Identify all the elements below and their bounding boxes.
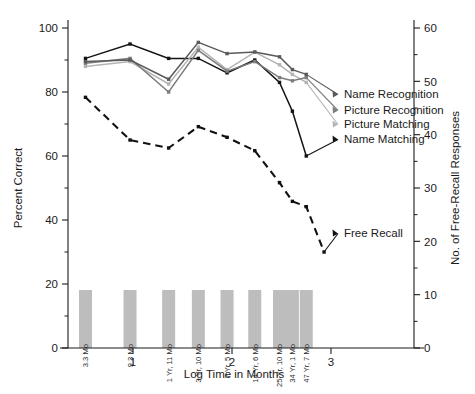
series-marker [291,68,294,71]
series-label-free-recall: Free Recall [344,227,403,239]
series-marker [128,138,131,141]
y-tick-label: 20 [45,278,58,290]
series-marker [278,55,281,58]
y-tick-label: 80 [45,86,58,98]
series-marker [128,58,131,61]
y2-tick-label: 40 [424,129,437,141]
series-marker [197,57,200,60]
series-marker [84,96,87,99]
series-marker [167,90,170,93]
series-label-leader [306,82,338,124]
label-leader-group [306,74,338,252]
series-marker [291,73,294,76]
interval-bar-label: 1 Yr, 11 Mo [165,344,174,382]
series-marker [84,65,87,68]
series-label-picture-matching: Picture Matching [344,118,430,130]
interval-bar: 34 Yr, 1 Mo [286,290,299,383]
series-picture-matching [84,46,308,86]
series-marker [84,57,87,60]
series-label-leader [324,234,338,253]
series-free-recall [84,96,326,254]
interval-bar-rect [286,290,299,348]
y-axis-title: Percent Correct [12,147,24,228]
interval-bar-label: 47 Yr, 7 Mo [302,344,311,383]
interval-bar: 3.3 Mo [79,290,92,367]
series-marker [197,46,200,49]
series-marker [305,205,308,208]
y2-tick-label: 60 [424,22,437,34]
interval-bar-label: 34 Yr, 1 Mo [288,344,297,383]
series-marker [167,146,170,149]
series-label-picture-recognition: Picture Recognition [344,104,444,116]
y-tick-label: 0 [52,342,58,354]
y-tick-label: 60 [45,150,58,162]
series-label-name-matching: Name Matching [344,133,425,145]
series-marker [278,76,281,79]
axes-group [60,20,424,354]
series-marker [167,82,170,85]
x-tick-label: 1 [130,356,136,368]
series-marker [278,63,281,66]
interval-bar-rect [248,290,261,348]
series-marker [291,200,294,203]
series-marker [253,50,256,53]
series-marker [167,57,170,60]
interval-bar-rect [300,290,313,348]
x-axis-title: Log Time in Months [184,368,285,380]
series-marker [197,125,200,128]
series-group [84,41,326,254]
y-tick-label: 100 [39,22,58,34]
y2-tick-label: 50 [424,76,437,88]
series-marker [225,70,228,73]
y2-tick-label: 20 [424,236,437,248]
series-marker [291,79,294,82]
series-marker [197,41,200,44]
series-marker [253,60,256,63]
series-label-arrow [333,91,339,98]
series-marker [197,49,200,52]
y2-tick-label: 10 [424,289,437,301]
series-marker [291,110,294,113]
tick-label-group: 0204060801000102030405060123 [39,22,437,368]
interval-bar: 1 Yr, 11 Mo [162,290,175,382]
series-marker [253,149,256,152]
y2-tick-label: 30 [424,182,437,194]
series-marker [225,136,228,139]
interval-bar-rect [162,290,175,348]
interval-bar-label: 25 Yr, 10 Mo [275,344,284,387]
chart-canvas: 3.3 Mo9.3 Mo1 Yr, 11 Mo3 Yr, 10 Mo7 Yr, … [0,0,475,394]
y2-axis-title: No. of Free-Recall Responses [449,111,461,265]
series-label-name-recognition: Name Recognition [344,88,439,100]
series-line [86,97,325,252]
x-tick-label: 3 [328,356,334,368]
interval-bar-rect [192,290,205,348]
series-marker [225,52,228,55]
series-marker [167,78,170,81]
x-tick-label: 2 [229,356,235,368]
interval-bar-rect [273,290,286,348]
interval-bar: 47 Yr, 7 Mo [300,290,313,383]
chart-figure: 3.3 Mo9.3 Mo1 Yr, 11 Mo3 Yr, 10 Mo7 Yr, … [0,0,475,394]
series-marker [84,60,87,63]
series-label-group: Name MatchingPicture MatchingPicture Rec… [344,88,444,239]
series-line [86,50,307,92]
series-marker [278,81,281,84]
series-marker [128,42,131,45]
series-marker [278,181,281,184]
y-tick-label: 40 [45,214,58,226]
interval-bar-rect [79,290,92,348]
y2-tick-label: 0 [424,342,430,354]
interval-bar-rect [221,290,234,348]
interval-bar-rect [124,290,137,348]
